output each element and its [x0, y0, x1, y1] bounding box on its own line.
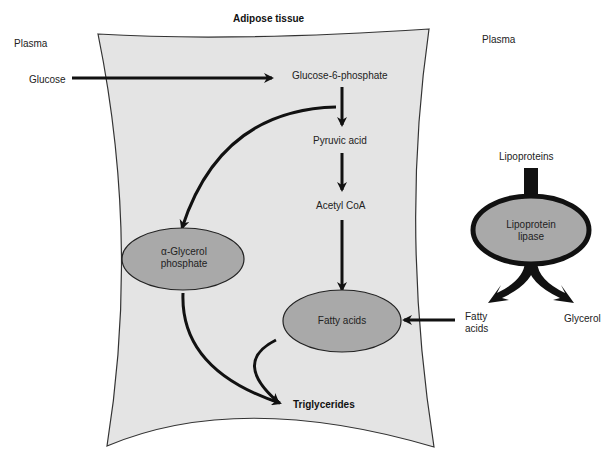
- plasma-left-label: Plasma: [14, 38, 47, 50]
- diagram-title: Adipose tissue: [233, 13, 304, 25]
- lipoprotein-lipase-label-line1: Lipoprotein: [496, 219, 566, 231]
- pyruvic-acid-label: Pyruvic acid: [313, 135, 367, 147]
- lipoprotein-lipase-label-line2: lipase: [496, 231, 566, 243]
- triglycerides-label: Triglycerides: [293, 399, 355, 411]
- lipoproteins-label: Lipoproteins: [499, 151, 553, 163]
- glucose-6-phosphate-label: Glucose-6-phosphate: [292, 70, 388, 82]
- acetyl-coa-label: Acetyl CoA: [316, 200, 365, 212]
- plasma-right-label: Plasma: [482, 34, 515, 46]
- lipoprotein-lipase-label: Lipoprotein lipase: [496, 219, 566, 243]
- glucose-label: Glucose: [29, 74, 66, 86]
- arrow-lipase-to-fattyacids: [488, 262, 535, 303]
- lipoprotein-input-bar: [524, 168, 538, 196]
- arrow-lipase-to-glycerol: [527, 262, 574, 303]
- glycerol-phosphate-label-line1: α-Glycerol: [146, 246, 222, 258]
- plasma-fatty-acids-label-line2: acids: [465, 323, 488, 335]
- glycerol-phosphate-label-line2: phosphate: [146, 258, 222, 270]
- plasma-fatty-acids-label: Fatty acids: [465, 311, 488, 335]
- glycerol-phosphate-label: α-Glycerol phosphate: [146, 246, 222, 270]
- plasma-fatty-acids-label-line1: Fatty: [465, 311, 488, 323]
- glycerol-label: Glycerol: [564, 313, 601, 325]
- fatty-acids-inside-label: Fatty acids: [302, 315, 382, 327]
